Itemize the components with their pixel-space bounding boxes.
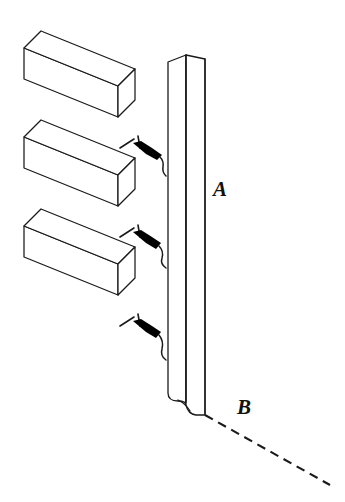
connector-bottom-pin (120, 317, 134, 326)
block-middle (24, 120, 135, 206)
solder-blob-middle (133, 230, 161, 249)
lead-wire-bottom (159, 335, 166, 360)
connector-bottom (120, 314, 166, 360)
block-bottom (24, 209, 135, 295)
connector-middle-pin (120, 228, 134, 237)
vertical-strip-side-face (168, 55, 186, 405)
dashed-reference-line-b (205, 415, 330, 485)
solder-blob-top (133, 141, 162, 160)
label-b: B (236, 395, 251, 419)
diagram-canvas: A B (0, 0, 345, 502)
block-top (24, 31, 135, 117)
connector-top-pin (120, 139, 134, 148)
label-a: A (211, 177, 227, 201)
lead-wire-middle (159, 246, 166, 268)
figure-root: A B (0, 0, 345, 502)
vertical-strip-front-face (186, 55, 205, 415)
lead-wire-top (160, 157, 166, 176)
solder-blob-bottom (133, 319, 161, 338)
